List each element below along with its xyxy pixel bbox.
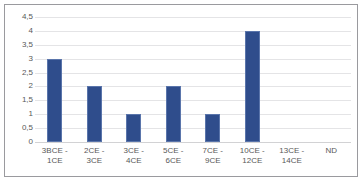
bar-slot [312,17,352,142]
bar[interactable] [87,86,102,142]
plot-area [35,17,351,142]
bar-slot [272,17,312,142]
y-axis-tick-label: 2 [9,82,33,90]
y-axis-tick-label: 0 [9,138,33,146]
x-axis-category-label: 5CE - 6CE [154,144,194,176]
x-axis-category-label: ND [312,144,352,176]
bar[interactable] [245,31,260,142]
y-axis-tick-label: 3,5 [9,41,33,49]
x-axis-category-label: 10CE - 12CE [233,144,273,176]
y-axis-tick-label: 4 [9,27,33,35]
x-axis-category-label: 13CE - 14CE [272,144,312,176]
y-axis-tick-label: 3 [9,55,33,63]
bar[interactable] [166,86,181,142]
y-axis: 00,511,522,533,544,5 [9,17,33,142]
y-axis-tick-label: 1 [9,110,33,118]
y-axis-tick-label: 0,5 [9,124,33,132]
x-axis-category-label: 3BCE - 1CE [35,144,75,176]
bar-slot [75,17,115,142]
x-axis-category-label: 3CE - 4CE [114,144,154,176]
bar-series [35,17,351,142]
chart-plot-wrapper: 00,511,522,533,544,5 3BCE - 1CE2CE - 3CE… [5,5,357,176]
y-axis-tick-label: 1,5 [9,96,33,104]
axis-baseline [35,142,351,143]
y-axis-tick-label: 2,5 [9,69,33,77]
x-axis: 3BCE - 1CE2CE - 3CE3CE - 4CE5CE - 6CE7CE… [35,144,351,176]
bar-slot [35,17,75,142]
y-axis-tick-label: 4,5 [9,13,33,21]
chart-frame: 00,511,522,533,544,5 3BCE - 1CE2CE - 3CE… [4,4,358,177]
x-axis-category-label: 2CE - 3CE [75,144,115,176]
bar-slot [233,17,273,142]
bar[interactable] [47,59,62,142]
bar-slot [193,17,233,142]
bar[interactable] [126,114,141,142]
bar-slot [114,17,154,142]
bar[interactable] [205,114,220,142]
bar-slot [154,17,194,142]
x-axis-category-label: 7CE - 9CE [193,144,233,176]
